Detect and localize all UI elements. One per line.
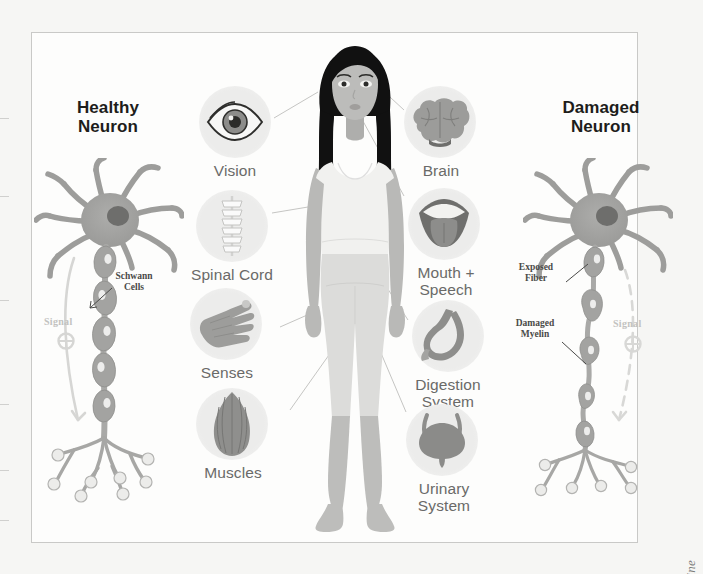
hand-icon <box>196 297 256 351</box>
urinary-label-line2: System <box>392 497 496 514</box>
eye-icon <box>206 102 264 142</box>
exposed-fiber-line2: Fiber <box>505 273 567 284</box>
brain-label: Brain <box>400 162 482 179</box>
infographic-canvas: Healthy Neuron <box>0 0 703 574</box>
damaged-myelin-leader <box>560 340 592 368</box>
damaged-myelin-annotation: Damaged Myelin <box>502 318 568 340</box>
urinary-label: Urinary System <box>392 480 496 514</box>
muscles-label-line1: Muscles <box>186 464 280 481</box>
page-gutter-mark <box>0 404 9 405</box>
damaged-myelin-line2: Myelin <box>502 329 568 340</box>
muscles-label: Muscles <box>186 464 280 481</box>
vision-icon-disc <box>199 86 271 158</box>
brain-icon <box>409 96 471 148</box>
mouth-label-line1: Mouth + <box>392 264 500 281</box>
healthy-neuron-title-line1: Healthy <box>46 98 170 117</box>
healthy-neuron-title: Healthy Neuron <box>46 98 170 136</box>
exposed-fiber-line1: Exposed <box>505 262 567 273</box>
mouth-icon-disc <box>408 188 480 260</box>
spinal-cord-label-line1: Spinal Cord <box>167 266 297 283</box>
stomach-icon <box>420 307 476 365</box>
page-gutter-mark <box>0 300 9 301</box>
exposed-fiber-annotation: Exposed Fiber <box>505 262 567 284</box>
mouth-label: Mouth + Speech <box>392 264 500 298</box>
mouth-icon <box>415 197 473 251</box>
watermark-text: iStock.com/VectorMine <box>683 560 699 574</box>
brain-label-line1: Brain <box>400 162 482 179</box>
damaged-myelin-line1: Damaged <box>502 318 568 329</box>
senses-label: Senses <box>182 364 272 381</box>
schwann-cells-leader <box>84 286 114 312</box>
schwann-cells-line1: Schwann <box>103 271 165 282</box>
healthy-neuron-illustration <box>34 158 184 508</box>
healthy-neuron-title-line2: Neuron <box>46 117 170 136</box>
bladder-icon <box>415 411 469 469</box>
digestion-label-line1: Digestion <box>392 376 504 393</box>
mouth-label-line2: Speech <box>392 281 500 298</box>
page-gutter-mark <box>0 118 9 119</box>
muscles-icon-disc <box>196 388 268 460</box>
senses-icon-disc <box>190 288 262 360</box>
vision-label: Vision <box>190 162 280 179</box>
spinal-cord-label: Spinal Cord <box>167 266 297 283</box>
urinary-icon-disc <box>406 404 478 476</box>
damaged-neuron-title-line1: Damaged <box>540 98 662 117</box>
digestion-icon-disc <box>412 300 484 372</box>
spinal-cord-icon-disc <box>196 190 268 262</box>
damaged-signal-label: Signal <box>613 318 641 329</box>
senses-label-line1: Senses <box>182 364 272 381</box>
vision-label-line1: Vision <box>190 162 280 179</box>
muscle-icon <box>207 391 257 457</box>
istock-watermark: ▣ iStock.com/VectorMine <box>683 560 699 574</box>
urinary-label-line1: Urinary <box>392 480 496 497</box>
spine-icon <box>214 195 250 257</box>
page-gutter-mark <box>0 470 9 471</box>
exposed-fiber-leader <box>564 262 594 286</box>
damaged-neuron-title-line2: Neuron <box>540 117 662 136</box>
damaged-neuron-title: Damaged Neuron <box>540 98 662 136</box>
brain-icon-disc <box>404 86 476 158</box>
healthy-signal-label: Signal <box>44 316 72 327</box>
page-gutter-mark <box>0 520 9 521</box>
page-gutter-mark <box>0 196 9 197</box>
